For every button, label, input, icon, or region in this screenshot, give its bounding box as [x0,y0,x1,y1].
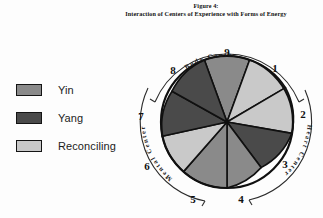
figure-title-block: Figure 4: Interaction of Centers of Expe… [92,2,320,18]
chart-legend: Yin Yang Reconciling [16,76,116,160]
legend-label-yang: Yang [58,112,83,124]
figure-number: Figure 4: [92,2,320,9]
slice-number-4: 4 [238,193,244,205]
legend-item-yang: Yang [16,104,116,132]
legend-swatch-reconciling [16,140,42,152]
slice-number-5: 5 [190,193,196,205]
figure-container: Figure 4: Interaction of Centers of Expe… [0,0,323,218]
slice-number-2: 2 [300,108,306,120]
legend-item-yin: Yin [16,76,116,104]
legend-label-reconciling: Reconciling [58,140,116,152]
slice-number-6: 6 [144,160,150,172]
slice-number-3: 3 [282,158,288,170]
legend-swatch-yin [16,84,42,96]
arc-heart-tick-bottom [249,200,252,205]
legend-label-yin: Yin [58,84,74,96]
arc-body-tick-left [150,99,155,102]
slice-number-7: 7 [138,110,144,122]
pie-diagram: 9 1 2 3 4 5 6 7 8 Body Center Heart Cent… [131,22,323,218]
figure-caption: Interaction of Centers of Experience wit… [92,10,320,17]
legend-item-reconciling: Reconciling [16,132,116,160]
arc-mental-tick-bottom [202,201,205,206]
legend-swatch-yang [16,112,42,124]
slice-number-8: 8 [170,64,176,76]
slice-number-1: 1 [272,62,278,74]
arc-body-tick-right [299,99,304,102]
